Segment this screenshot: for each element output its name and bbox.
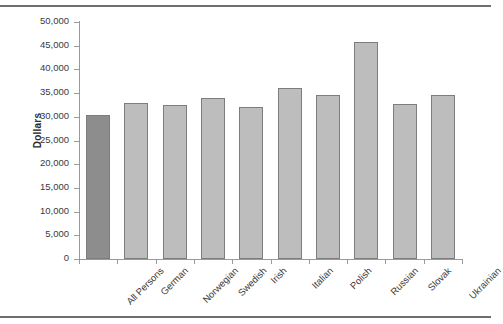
x-tick-mark (232, 259, 233, 264)
y-tick-label: 5,000 (45, 228, 69, 239)
y-tick-label: 0 (64, 252, 69, 263)
bar[interactable] (431, 95, 455, 259)
x-tick-label: Swedish (236, 265, 269, 298)
bar-slot (424, 22, 462, 259)
bar-slot (232, 22, 270, 259)
bar-slot (156, 22, 194, 259)
bar[interactable] (86, 115, 110, 259)
y-tick-label: 10,000 (40, 205, 69, 216)
x-tick-label: Italian (309, 265, 335, 291)
x-tick-label: Ukrainian (467, 265, 503, 301)
y-tick-label: 25,000 (40, 134, 69, 145)
y-tick-label: 35,000 (40, 86, 69, 97)
x-tick-mark (309, 259, 310, 264)
y-tick-label: 15,000 (40, 181, 69, 192)
bar-slot (271, 22, 309, 259)
x-tick-mark (385, 259, 386, 264)
x-tick-label: Russian (388, 265, 420, 297)
x-tick-label: Slovak (425, 265, 453, 293)
bar-slot (79, 22, 117, 259)
x-tick-mark (156, 259, 157, 264)
y-tick-label: 20,000 (40, 157, 69, 168)
bar[interactable] (278, 88, 302, 259)
x-tick-mark (347, 259, 348, 264)
x-tick-label: Polish (348, 265, 374, 291)
y-tick-label: 30,000 (40, 110, 69, 121)
bar-slot (309, 22, 347, 259)
page-border-bottom (0, 316, 491, 318)
x-tick-mark (79, 259, 80, 264)
x-tick-mark (271, 259, 272, 264)
bar-slot (194, 22, 232, 259)
x-tick-mark (117, 259, 118, 264)
y-tick-label: 45,000 (40, 39, 69, 50)
x-tick-label: Norwegian (200, 265, 240, 305)
x-tick-label: Irish (269, 265, 289, 285)
bar-slot (347, 22, 385, 259)
bar[interactable] (239, 107, 263, 259)
bar[interactable] (163, 105, 187, 259)
bar[interactable] (316, 95, 340, 259)
bar-chart: Dollars 50,00045,00040,00035,00030,00025… (0, 7, 491, 316)
y-tick-label: 40,000 (40, 62, 69, 73)
bar[interactable] (124, 103, 148, 259)
x-tick-mark (462, 259, 463, 264)
bar[interactable] (393, 104, 417, 259)
bar-slot (117, 22, 155, 259)
x-tick-mark (194, 259, 195, 264)
bar-slot (385, 22, 423, 259)
x-tick-mark (424, 259, 425, 264)
y-tick-label: 50,000 (40, 15, 69, 26)
bar[interactable] (354, 42, 378, 259)
bar[interactable] (201, 98, 225, 259)
